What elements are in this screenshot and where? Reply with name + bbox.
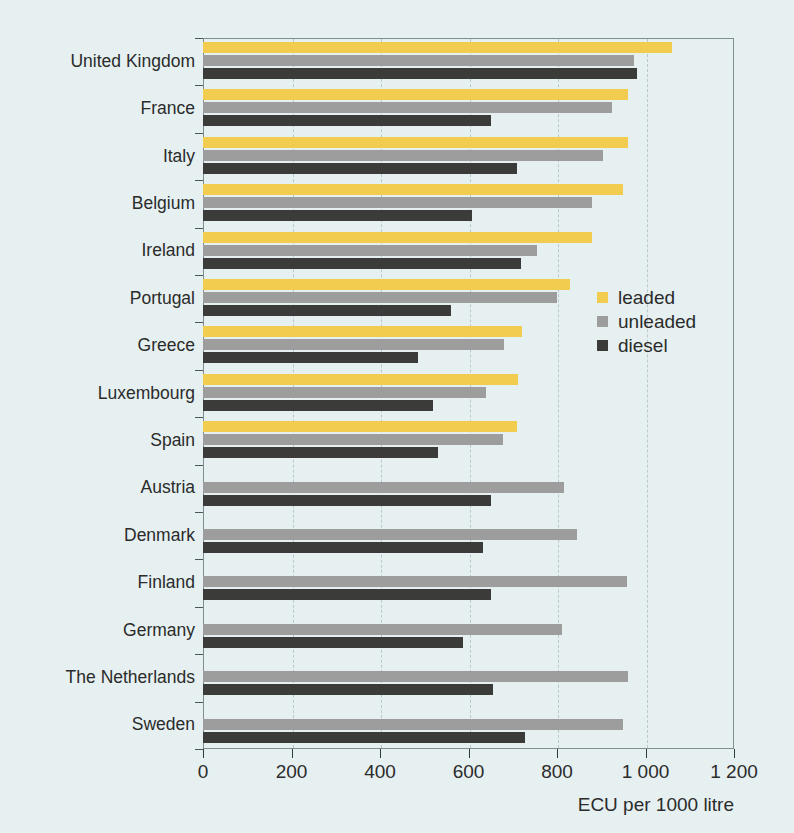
y-axis-tick (195, 417, 203, 418)
x-axis-tick-label: 800 (541, 761, 573, 783)
y-axis-tick (195, 607, 203, 608)
bar-unleaded (203, 102, 612, 113)
bar-group (203, 85, 734, 132)
y-axis-tick (195, 749, 203, 750)
x-axis-tick (380, 749, 381, 758)
bar-group (203, 512, 734, 559)
bar-unleaded (203, 719, 623, 730)
bar-diesel (203, 115, 491, 126)
legend: leadedunleadeddiesel (597, 285, 696, 357)
bar-unleaded (203, 55, 634, 66)
bar-group (203, 559, 734, 606)
x-axis-tick (734, 749, 735, 758)
bar-group (203, 654, 734, 701)
bar-leaded (203, 137, 628, 148)
y-axis-tick (195, 465, 203, 466)
x-axis: 02004006008001 0001 200 ECU per 1000 lit… (203, 749, 734, 829)
legend-swatch-icon (597, 340, 608, 351)
bar-diesel (203, 684, 493, 695)
bar-unleaded (203, 576, 627, 587)
bars-layer (203, 38, 734, 749)
bar-diesel (203, 163, 517, 174)
x-axis-tick-label: 0 (198, 761, 209, 783)
bar-group (203, 702, 734, 749)
bar-diesel (203, 589, 491, 600)
bar-leaded (203, 232, 592, 243)
bar-leaded (203, 326, 522, 337)
bar-group (203, 607, 734, 654)
y-axis-label: Sweden (5, 716, 195, 734)
y-axis-tick (195, 275, 203, 276)
y-axis-label: Austria (5, 479, 195, 497)
bar-unleaded (203, 434, 503, 445)
x-axis-tick-label: 200 (276, 761, 308, 783)
y-axis-label: Greece (5, 337, 195, 355)
bar-group (203, 370, 734, 417)
x-axis-tick-label: 600 (453, 761, 485, 783)
bar-leaded (203, 421, 517, 432)
bar-group (203, 228, 734, 275)
legend-label: unleaded (618, 312, 696, 331)
legend-item: leaded (597, 285, 696, 309)
y-axis-label: Ireland (5, 242, 195, 260)
x-axis-tick (469, 749, 470, 758)
y-axis-tick (195, 133, 203, 134)
legend-label: diesel (618, 336, 668, 355)
bar-unleaded (203, 387, 486, 398)
legend-label: leaded (618, 288, 675, 307)
bar-diesel (203, 542, 483, 553)
legend-item: diesel (597, 333, 696, 357)
bar-unleaded (203, 482, 564, 493)
y-axis-label: Spain (5, 432, 195, 450)
x-axis-tick (646, 749, 647, 758)
y-axis-labels: United KingdomFranceItalyBelgiumIrelandP… (0, 38, 195, 749)
y-axis-tick (195, 38, 203, 39)
bar-diesel (203, 400, 433, 411)
bar-group (203, 180, 734, 227)
bar-diesel (203, 447, 438, 458)
bar-leaded (203, 42, 672, 53)
y-axis-label: Portugal (5, 290, 195, 308)
y-axis-label: Italy (5, 148, 195, 166)
y-axis-tick (195, 512, 203, 513)
y-axis-tick (195, 559, 203, 560)
legend-swatch-icon (597, 316, 608, 327)
bar-diesel (203, 210, 472, 221)
bar-diesel (203, 637, 463, 648)
bar-unleaded (203, 529, 577, 540)
y-axis-tick (195, 180, 203, 181)
bar-leaded (203, 374, 518, 385)
y-axis-label: Germany (5, 622, 195, 640)
bar-group (203, 465, 734, 512)
y-axis-label: Finland (5, 574, 195, 592)
y-axis-label: France (5, 100, 195, 118)
y-axis-tick (195, 370, 203, 371)
x-axis-tick (203, 749, 204, 758)
bar-group (203, 38, 734, 85)
x-axis-tick-label: 400 (364, 761, 396, 783)
bar-group (203, 417, 734, 464)
bar-unleaded (203, 150, 603, 161)
y-axis-label: United Kingdom (5, 53, 195, 71)
bar-diesel (203, 352, 418, 363)
legend-swatch-icon (597, 292, 608, 303)
y-axis-label: Denmark (5, 527, 195, 545)
y-axis-tick (195, 322, 203, 323)
y-axis-tick (195, 85, 203, 86)
bar-leaded (203, 279, 570, 290)
bar-diesel (203, 495, 491, 506)
bar-unleaded (203, 197, 592, 208)
y-axis-label: Luxembourg (5, 385, 195, 403)
bar-diesel (203, 258, 521, 269)
bar-diesel (203, 68, 637, 79)
bar-leaded (203, 89, 628, 100)
y-axis-tick (195, 654, 203, 655)
y-axis-tick (195, 702, 203, 703)
bar-unleaded (203, 624, 562, 635)
bar-group (203, 133, 734, 180)
y-axis-label: Belgium (5, 195, 195, 213)
bar-unleaded (203, 292, 557, 303)
x-axis-title: ECU per 1000 litre (578, 794, 734, 816)
x-axis-tick (557, 749, 558, 758)
x-axis-tick (292, 749, 293, 758)
